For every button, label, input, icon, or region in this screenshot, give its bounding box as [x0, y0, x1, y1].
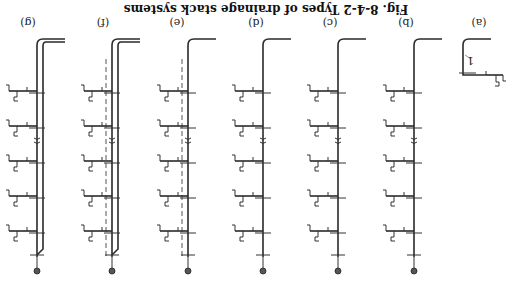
panel-label-g: (g)	[20, 16, 36, 29]
drainage-diagram-figure: Fig. 8-4-2 Types of drainage stack syste…	[0, 0, 531, 289]
panel-label-d: (d)	[248, 16, 264, 29]
callout-1-a: 1	[467, 54, 474, 67]
panel-label-e: (e)	[169, 16, 184, 29]
panel-label-c: (c)	[323, 16, 338, 29]
panel-label-a: (a)	[471, 16, 486, 29]
panel-label-b: (b)	[398, 16, 414, 29]
panel-a: 1	[459, 39, 506, 86]
figure-caption: Fig. 8-4-2 Types of drainage stack syste…	[123, 2, 408, 16]
panel-label-f: (f)	[97, 16, 110, 29]
